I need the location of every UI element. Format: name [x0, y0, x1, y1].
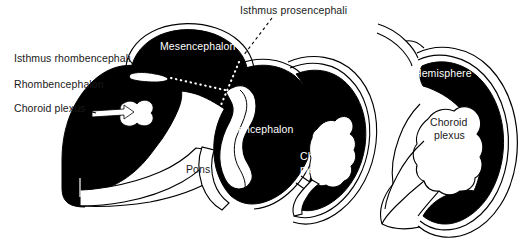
- label-choroid-plexus-center-line2: plexus: [300, 163, 331, 175]
- label-choroid-plexus-left: Choroid plexus: [14, 102, 85, 114]
- label-diencephalon: Diencephalon: [228, 123, 293, 135]
- label-isthmus-rhombencephali: Isthmus rhombencephali: [14, 52, 131, 64]
- hemisphere-tail-line-5: [382, 224, 420, 229]
- hemisphere-tail-line-1: [392, 104, 420, 184]
- label-choroid-plexus-right-line2: plexus: [434, 129, 465, 141]
- label-choroid-plexus-center-line1: Choroid: [300, 150, 337, 162]
- label-mesencephalon: Mesencephalon: [160, 40, 235, 52]
- label-rhombencephalon: Rhombencephalon: [14, 78, 104, 90]
- label-hemisphere: Hemisphere: [414, 67, 472, 79]
- isthmus-prosencephali-leader: [240, 18, 272, 60]
- label-isthmus-prosencephali: Isthmus prosencephali: [240, 4, 347, 16]
- hemisphere-tail-line-4: [381, 184, 394, 224]
- embryonic-brain-diagram: Isthmus prosencephali Isthmus rhombencep…: [0, 0, 529, 238]
- label-pons: Pons: [186, 163, 210, 175]
- label-choroid-plexus-right-line1: Choroid: [430, 116, 467, 128]
- hemisphere-tail-line-3: [382, 181, 424, 224]
- hemisphere-stalk-line-2: [377, 33, 412, 66]
